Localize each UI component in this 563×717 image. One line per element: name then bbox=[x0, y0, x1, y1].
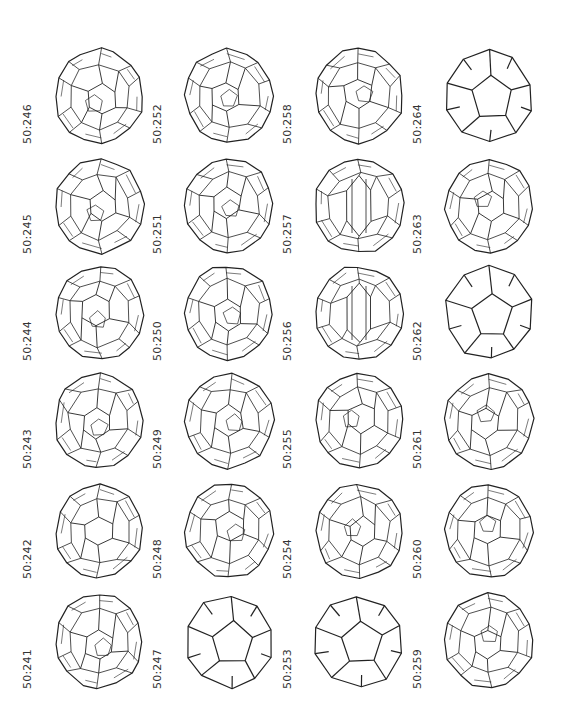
isomer-label-text: 50:244 bbox=[21, 321, 34, 361]
isomer-cell: 50:263 bbox=[412, 150, 542, 260]
fullerene-wireframe-icon bbox=[46, 585, 152, 695]
isomer-label: 50:255 bbox=[282, 409, 296, 469]
isomer-cell: 50:250 bbox=[152, 257, 282, 367]
fullerene-wireframe-icon bbox=[46, 150, 152, 260]
fullerene-wireframe-icon bbox=[176, 585, 282, 695]
isomer-label-text: 50:252 bbox=[151, 104, 164, 144]
isomer-cell: 50:262 bbox=[412, 257, 542, 367]
fullerene-wireframe-icon bbox=[176, 365, 282, 475]
isomer-label-text: 50:251 bbox=[151, 214, 164, 254]
fullerene-wireframe-icon bbox=[306, 475, 412, 585]
isomer-label-text: 50:262 bbox=[411, 321, 424, 361]
isomer-cell: 50:242 bbox=[22, 475, 152, 585]
isomer-label: 50:243 bbox=[22, 409, 36, 469]
fullerene-wireframe-icon bbox=[436, 585, 542, 695]
fullerene-wireframe-icon bbox=[46, 365, 152, 475]
isomer-label: 50:249 bbox=[152, 409, 166, 469]
isomer-cell: 50:244 bbox=[22, 257, 152, 367]
isomer-cell: 50:253 bbox=[282, 585, 412, 695]
fullerene-wireframe-icon bbox=[46, 475, 152, 585]
isomer-cell: 50:264 bbox=[412, 40, 542, 150]
isomer-cell: 50:258 bbox=[282, 40, 412, 150]
isomer-cell: 50:247 bbox=[152, 585, 282, 695]
fullerene-wireframe-icon bbox=[306, 585, 412, 695]
fullerene-wireframe-icon bbox=[46, 257, 152, 367]
isomer-cell: 50:261 bbox=[412, 365, 542, 475]
fullerene-wireframe-icon bbox=[306, 365, 412, 475]
isomer-label: 50:253 bbox=[282, 629, 296, 689]
isomer-label: 50:257 bbox=[282, 194, 296, 254]
isomer-cell: 50:257 bbox=[282, 150, 412, 260]
isomer-label: 50:252 bbox=[152, 84, 166, 144]
isomer-label: 50:262 bbox=[412, 301, 426, 361]
isomer-cell: 50:252 bbox=[152, 40, 282, 150]
isomer-cell: 50:259 bbox=[412, 585, 542, 695]
isomer-label: 50:261 bbox=[412, 409, 426, 469]
isomer-label: 50:264 bbox=[412, 84, 426, 144]
fullerene-wireframe-icon bbox=[176, 40, 282, 150]
isomer-label-text: 50:242 bbox=[21, 539, 34, 579]
isomer-cell: 50:255 bbox=[282, 365, 412, 475]
isomer-label-text: 50:261 bbox=[411, 429, 424, 469]
isomer-cell: 50:243 bbox=[22, 365, 152, 475]
isomer-label: 50:250 bbox=[152, 301, 166, 361]
isomer-label-text: 50:246 bbox=[21, 104, 34, 144]
isomer-label: 50:242 bbox=[22, 519, 36, 579]
fullerene-wireframe-icon bbox=[306, 150, 412, 260]
fullerene-wireframe-icon bbox=[436, 150, 542, 260]
isomer-label: 50:256 bbox=[282, 301, 296, 361]
fullerene-wireframe-icon bbox=[436, 475, 542, 585]
fullerene-wireframe-icon bbox=[176, 257, 282, 367]
isomer-cell: 50:260 bbox=[412, 475, 542, 585]
isomer-label: 50:245 bbox=[22, 194, 36, 254]
isomer-label-text: 50:250 bbox=[151, 321, 164, 361]
isomer-label-text: 50:259 bbox=[411, 649, 424, 689]
isomer-label: 50:244 bbox=[22, 301, 36, 361]
isomer-label-text: 50:241 bbox=[21, 649, 34, 689]
isomer-label: 50:259 bbox=[412, 629, 426, 689]
isomer-label-text: 50:260 bbox=[411, 539, 424, 579]
fullerene-wireframe-icon bbox=[306, 257, 412, 367]
fullerene-wireframe-icon bbox=[306, 40, 412, 150]
fullerene-wireframe-icon bbox=[436, 257, 542, 367]
fullerene-wireframe-icon bbox=[176, 475, 282, 585]
isomer-label-text: 50:257 bbox=[281, 214, 294, 254]
isomer-label-text: 50:253 bbox=[281, 649, 294, 689]
fullerene-wireframe-icon bbox=[46, 40, 152, 150]
isomer-label-text: 50:256 bbox=[281, 321, 294, 361]
isomer-label-text: 50:247 bbox=[151, 649, 164, 689]
isomer-label: 50:254 bbox=[282, 519, 296, 579]
isomer-label-text: 50:245 bbox=[21, 214, 34, 254]
isomer-label-text: 50:258 bbox=[281, 104, 294, 144]
isomer-cell: 50:251 bbox=[152, 150, 282, 260]
isomer-label: 50:260 bbox=[412, 519, 426, 579]
isomer-label-text: 50:249 bbox=[151, 429, 164, 469]
isomer-label-text: 50:263 bbox=[411, 214, 424, 254]
isomer-cell: 50:256 bbox=[282, 257, 412, 367]
isomer-label: 50:258 bbox=[282, 84, 296, 144]
isomer-cell: 50:254 bbox=[282, 475, 412, 585]
isomer-cell: 50:241 bbox=[22, 585, 152, 695]
isomer-label-text: 50:255 bbox=[281, 429, 294, 469]
isomer-cell: 50:249 bbox=[152, 365, 282, 475]
fullerene-wireframe-icon bbox=[436, 40, 542, 150]
isomer-label: 50:246 bbox=[22, 84, 36, 144]
isomer-label: 50:251 bbox=[152, 194, 166, 254]
isomer-label: 50:247 bbox=[152, 629, 166, 689]
isomer-label-text: 50:248 bbox=[151, 539, 164, 579]
isomer-label: 50:263 bbox=[412, 194, 426, 254]
isomer-cell: 50:245 bbox=[22, 150, 152, 260]
isomer-label-text: 50:243 bbox=[21, 429, 34, 469]
isomer-label-text: 50:254 bbox=[281, 539, 294, 579]
isomer-cell: 50:248 bbox=[152, 475, 282, 585]
isomer-label-text: 50:264 bbox=[411, 104, 424, 144]
isomer-cell: 50:246 bbox=[22, 40, 152, 150]
fullerene-wireframe-icon bbox=[436, 365, 542, 475]
fullerene-wireframe-icon bbox=[176, 150, 282, 260]
isomer-label: 50:241 bbox=[22, 629, 36, 689]
isomer-label: 50:248 bbox=[152, 519, 166, 579]
